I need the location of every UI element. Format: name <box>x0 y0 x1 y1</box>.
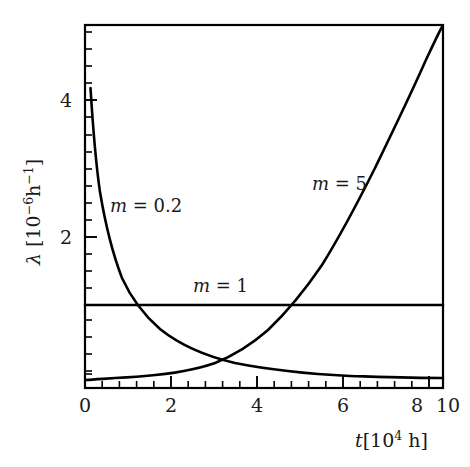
svg-text:t[104 h]: t[104 h] <box>355 428 428 451</box>
x-tick-label-2: 2 <box>165 394 177 416</box>
x-tick-label-8: 8 <box>411 394 423 416</box>
x-tick-label-0: 0 <box>79 394 91 416</box>
annotation-m-1-eq: = <box>210 275 237 296</box>
annotation-m-5-eq: = <box>329 173 356 194</box>
x-tick-label-6: 6 <box>337 394 349 416</box>
svg-text:λ [10−6h−1]: λ [10−6h−1] <box>21 159 44 266</box>
annotation-m-5-value: 5 <box>356 173 367 194</box>
annotation-m-5: m = 5 <box>312 173 367 194</box>
annotation-m-1-value: 1 <box>237 275 248 296</box>
y-tick-label-2: 2 <box>60 226 72 248</box>
x-axis-title-exponent: 4 <box>394 428 402 443</box>
y-tick-label-4: 4 <box>60 89 72 111</box>
x-axis-title-open: [10 <box>363 429 395 451</box>
annotation-m-1-var: m <box>193 275 210 296</box>
x-axis-title-unit: h] <box>402 429 428 451</box>
y-axis-title-mid: h <box>22 185 44 197</box>
x-tick-label-10: 10 <box>436 394 460 416</box>
y-axis-title-open: [10 <box>22 215 44 253</box>
annotation-m-0-2-eq: = <box>127 195 154 216</box>
y-axis-title-exponent-1: −6 <box>21 197 36 215</box>
y-axis-title-close: ] <box>22 159 44 166</box>
annotation-m-5-var: m <box>312 173 329 194</box>
y-axis-title: λ [10−6h−1] <box>21 159 44 266</box>
y-axis-title-var: λ <box>22 253 44 266</box>
figure-container: 0 2 4 6 8 10 2 4 t[104 h] λ [10−6h−1] m … <box>0 0 470 467</box>
curve-m-0-2 <box>91 88 444 378</box>
annotation-m-0-2-var: m <box>110 195 127 216</box>
hazard-rate-chart: 0 2 4 6 8 10 2 4 t[104 h] λ [10−6h−1] m … <box>0 0 470 467</box>
x-axis-title: t[104 h] <box>355 428 428 451</box>
annotation-m-0-2-value: 0.2 <box>154 195 183 216</box>
x-tick-label-4: 4 <box>251 394 263 416</box>
annotation-m-0-2: m = 0.2 <box>110 195 182 216</box>
annotation-m-1: m = 1 <box>193 275 248 296</box>
y-axis-title-exponent-2: −1 <box>21 166 36 184</box>
